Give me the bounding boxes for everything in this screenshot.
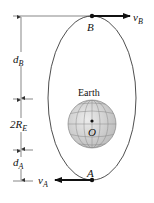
label-velocity-b: vB [133, 11, 143, 26]
center-point-o [90, 119, 93, 122]
orbit-diagram: B A vB vA Earth O dB 2RE dA [0, 0, 154, 203]
orbit-ellipse [48, 16, 136, 180]
label-earth: Earth [78, 87, 100, 98]
label-point-b: B [87, 21, 94, 33]
point-b [90, 14, 94, 18]
label-velocity-a: vA [38, 174, 48, 189]
label-point-a: A [86, 167, 94, 179]
earth-globe-icon [68, 100, 116, 148]
label-center-o: O [88, 126, 96, 138]
